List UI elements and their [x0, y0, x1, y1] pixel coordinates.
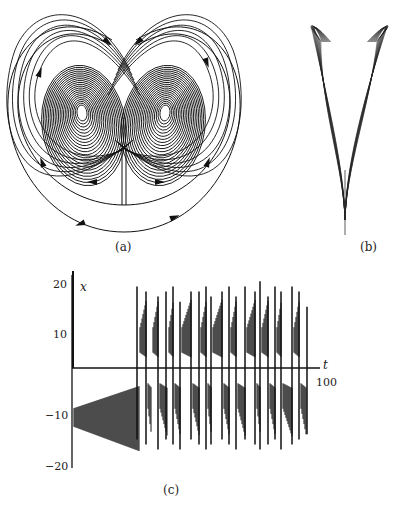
x-tick-100: 100 [316, 376, 337, 389]
attractor-edge-plot [300, 20, 411, 250]
y-tick-10: 10 [53, 328, 67, 341]
caption-b: (b) [360, 240, 377, 254]
x-axis-label: t [323, 358, 328, 372]
panel-b-attractor-edge [300, 20, 411, 250]
y-tick-neg10: −10 [45, 409, 68, 422]
phase-portrait-plot [0, 0, 280, 250]
caption-c: (c) [163, 483, 179, 497]
panel-a-phase-portrait [0, 0, 280, 250]
panel-c-time-series: 20 10 −10 −20 x t 100 [0, 270, 411, 480]
y-axis-label: x [80, 280, 87, 294]
y-tick-neg20: −20 [45, 460, 68, 473]
caption-a: (a) [115, 240, 132, 254]
y-tick-20: 20 [53, 278, 67, 291]
time-series-plot [0, 270, 411, 470]
